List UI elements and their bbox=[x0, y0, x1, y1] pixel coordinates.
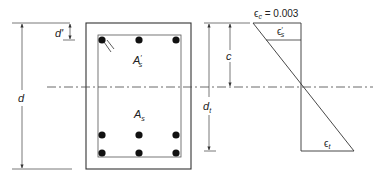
label-eps-s-prime: ϵ′s bbox=[277, 26, 285, 38]
tension-bars bbox=[98, 131, 179, 156]
beam-cross-section: A′s As bbox=[86, 23, 191, 169]
label-d: d bbox=[18, 92, 25, 104]
label-eps-t: ϵt bbox=[324, 138, 331, 150]
label-c: c bbox=[226, 50, 232, 62]
concrete-outline bbox=[86, 23, 191, 169]
compression-bars bbox=[98, 36, 179, 43]
strain-diagram: ϵc = 0.003 ϵ′s ϵt bbox=[253, 8, 354, 151]
dimension-c: c bbox=[225, 24, 235, 86]
dimension-d: d bbox=[12, 23, 72, 169]
label-eps-c: ϵc = 0.003 bbox=[254, 8, 299, 20]
label-As-prime: A′s bbox=[132, 54, 143, 68]
rc-section-diagram: d d' A′s As bbox=[0, 0, 373, 174]
label-d-prime: d' bbox=[55, 27, 64, 39]
label-As: As bbox=[133, 108, 145, 122]
dimension-d-prime: d' bbox=[55, 24, 75, 40]
